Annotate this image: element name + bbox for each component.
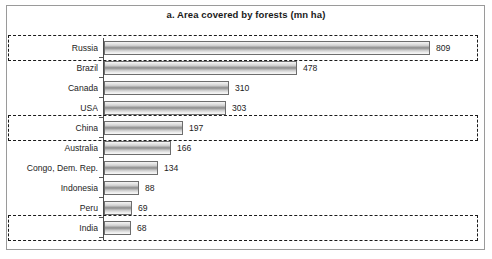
bar-row: Russia809 <box>0 38 492 58</box>
bar-row: China197 <box>0 118 492 138</box>
bar <box>104 221 131 235</box>
bar-value-label: 303 <box>232 98 246 118</box>
bar-value-label: 809 <box>436 38 450 58</box>
bar <box>104 201 132 215</box>
bar-category-label: Brazil <box>10 58 98 78</box>
bar-row: Congo, Dem. Rep.134 <box>0 158 492 178</box>
bar <box>104 121 183 135</box>
bar-category-label: Russia <box>10 38 98 58</box>
bar-row: Peru69 <box>0 198 492 218</box>
bar-category-label: Peru <box>10 198 98 218</box>
bar-row: Canada310 <box>0 78 492 98</box>
bar-category-label: Congo, Dem. Rep. <box>10 158 98 178</box>
bar <box>104 141 171 155</box>
bar-category-label: Canada <box>10 78 98 98</box>
bar-value-label: 478 <box>303 58 317 78</box>
bar-category-label: Indonesia <box>10 178 98 198</box>
bar-chart-plot-area: Russia809Brazil478Canada310USA303China19… <box>0 33 492 245</box>
bar-value-label: 310 <box>235 78 249 98</box>
bar-category-label: India <box>10 218 98 238</box>
bar <box>104 81 229 95</box>
bar-value-label: 69 <box>138 198 148 218</box>
bar-row: Indonesia88 <box>0 178 492 198</box>
axis-tick-mark <box>99 237 103 238</box>
bar-value-label: 134 <box>164 158 178 178</box>
bar-value-label: 88 <box>145 178 155 198</box>
chart-title: a. Area covered by forests (mn ha) <box>0 9 492 20</box>
bar-row: USA303 <box>0 98 492 118</box>
bar <box>104 101 226 115</box>
bar-value-label: 166 <box>177 138 191 158</box>
bar-category-label: Australia <box>10 138 98 158</box>
bar-row: India68 <box>0 218 492 238</box>
bar <box>104 61 297 75</box>
bar-row: Australia166 <box>0 138 492 158</box>
bar-value-label: 197 <box>189 118 203 138</box>
bar <box>104 181 139 195</box>
bar <box>104 41 430 55</box>
bar <box>104 161 158 175</box>
bar-category-label: USA <box>10 98 98 118</box>
bar-category-label: China <box>10 118 98 138</box>
bar-value-label: 68 <box>137 218 147 238</box>
bar-row: Brazil478 <box>0 58 492 78</box>
